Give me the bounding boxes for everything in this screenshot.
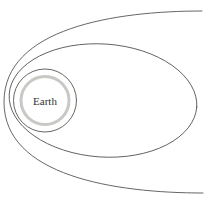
orbit-diagram-svg: Earth xyxy=(0,0,208,201)
orbit-diagram: Earth xyxy=(0,0,208,201)
earth-label: Earth xyxy=(33,95,57,107)
